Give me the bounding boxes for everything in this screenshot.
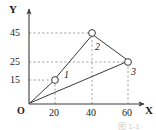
x-tick-label-60: 60 (122, 108, 132, 118)
y-tick-label-45: 45 (10, 28, 20, 38)
x-guide-lines (55, 31, 128, 104)
y-axis-label: Y (9, 4, 17, 15)
origin-label: O (17, 106, 25, 116)
edge-origin-to-node1 (30, 82, 53, 104)
x-axis-label: X (145, 105, 153, 116)
x-tick-label-20: 20 (49, 108, 59, 118)
edge-node1-to-node2 (57, 37, 92, 78)
node-label-1: 1 (64, 70, 69, 80)
y-guide-lines (29, 33, 130, 80)
axis-lines (29, 9, 144, 104)
figure-container: Y X O 45 25 15 20 40 60 1 2 3 图 1-1 (0, 0, 156, 130)
y-tick-label-15: 15 (10, 75, 20, 85)
x-tick-label-40: 40 (86, 108, 96, 118)
node-marker-1[interactable] (52, 77, 59, 84)
network-edges (30, 36, 126, 103)
node-label-2: 2 (95, 42, 100, 52)
node-marker-2[interactable] (89, 30, 96, 37)
node-marker-3[interactable] (125, 59, 132, 66)
y-tick-label-25: 25 (10, 57, 20, 67)
figure-caption: 图 1-1 (118, 120, 140, 130)
node-label-3: 3 (131, 67, 136, 77)
edge-origin-to-node3 (30, 63, 125, 104)
